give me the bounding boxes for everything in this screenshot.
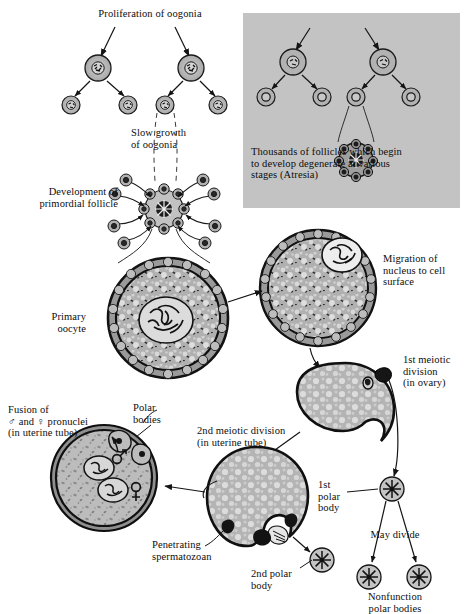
label-fusion-of-pronuclei: Fusion of ♂ and ♀ pronuclei (in uterine …	[8, 404, 124, 439]
label-migration: Migration of nucleus to cell surface	[383, 253, 467, 288]
migrating-nucleus-oocyte	[260, 230, 376, 346]
label-second-polar-body: 2nd polar body	[251, 568, 317, 591]
label-primordial-follicle: Development of primordial follicle	[24, 186, 118, 209]
oogonium-daughters	[62, 96, 227, 114]
first-polar-body	[380, 477, 404, 501]
arrow-second-to-fertilized	[165, 486, 205, 492]
label-may-divide: May divide	[362, 529, 428, 541]
label-proliferation-of-oogonia: Proliferation of oogonia	[80, 8, 220, 20]
arrow-to-second-polar-body	[293, 537, 310, 552]
label-first-polar-body: 1st polar body	[318, 479, 358, 514]
label-slow-growth: Slow growth of oogonia	[131, 127, 221, 150]
second-meiotic-division-cell	[203, 447, 308, 546]
primary-oocyte-cell	[108, 257, 228, 378]
arrow-primary-to-migrating	[228, 291, 262, 302]
oogonium-parent-left	[85, 55, 111, 81]
atresia-oogonium-left	[280, 49, 306, 75]
label-first-meiotic-division: 1st meiotic division (in ovary)	[403, 354, 469, 389]
primordial-follicle	[108, 174, 221, 263]
fertilized-ovum-cell	[51, 425, 157, 531]
label-penetrating-spermatozoan: Penetrating spermatozoan	[152, 539, 236, 562]
label-nonfunction-polar-bodies: Nonfunction polar bodies	[350, 591, 440, 614]
label-polar-bodies: Polar bodies	[133, 402, 179, 425]
label-primary-oocyte: Primary oocyte	[24, 311, 86, 334]
oogonium-parent-right	[178, 55, 204, 81]
atresia-oogonium-right	[370, 49, 396, 75]
leader-polar-bodies	[136, 425, 151, 437]
nonfunction-polar-body-1	[357, 565, 381, 589]
nonfunction-polar-body-2	[407, 565, 431, 589]
label-second-meiotic-division: 2nd meiotic division (in uterine tube)	[197, 425, 321, 448]
label-atresia: Thousands of follicles which begin to de…	[251, 146, 457, 181]
